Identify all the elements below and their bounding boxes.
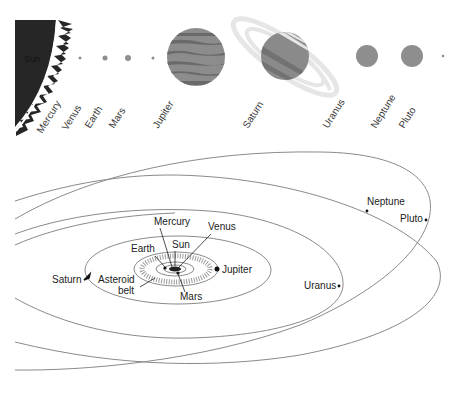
sun-center [169, 267, 181, 272]
saturn-disk [224, 8, 345, 107]
venus-dot [103, 56, 108, 61]
sun-label: Sun [24, 54, 40, 64]
saturn-dot-orbit [84, 274, 90, 280]
label-pluto: Pluto [396, 105, 418, 131]
size-comparison-panel: Sun [15, 8, 444, 136]
pluto-dot-orbit [425, 219, 428, 222]
orbit-label-asteroid-1: Asteroid [98, 274, 135, 285]
uranus-dot-orbit [338, 285, 341, 288]
label-uranus: Uranus [320, 97, 346, 130]
orbit-label-uranus: Uranus [304, 280, 336, 291]
pluto-dot [442, 55, 445, 58]
orbit-label-earth: Earth [131, 243, 155, 254]
label-neptune: Neptune [368, 92, 398, 130]
solar-system-diagram: Sun [0, 0, 457, 399]
orbit-label-saturn: Saturn [52, 274, 81, 285]
earth-dot [125, 55, 131, 61]
mars-dot [152, 57, 155, 60]
orbit-label-mercury: Mercury [154, 216, 190, 227]
orbit-label-jupiter: Jupiter [222, 264, 253, 275]
orbit-panel: Mercury Venus Earth Sun Jupiter Saturn A… [15, 152, 440, 370]
orbit-label-mars: Mars [180, 291, 202, 302]
orbit-label-sun: Sun [172, 239, 190, 250]
label-saturn: Saturn [240, 99, 265, 130]
label-jupiter: Jupiter [150, 98, 176, 130]
outer-lower-arc [15, 213, 175, 245]
label-earth: Earth [82, 104, 104, 130]
neptune-dot-orbit [366, 210, 369, 213]
orbit-label-neptune: Neptune [367, 196, 405, 207]
jupiter-dot-orbit [215, 267, 220, 272]
orbit-label-venus: Venus [208, 221, 236, 232]
orbit-label-asteroid-2: belt [118, 285, 134, 296]
neptune-disk [401, 45, 423, 67]
label-venus: Venus [59, 103, 83, 132]
mercury-dot [79, 57, 82, 60]
jupiter-disk [165, 28, 228, 86]
orbit-label-pluto: Pluto [400, 213, 423, 224]
mercury-leader [160, 228, 172, 267]
uranus-disk [356, 45, 378, 67]
label-mars: Mars [106, 105, 127, 130]
